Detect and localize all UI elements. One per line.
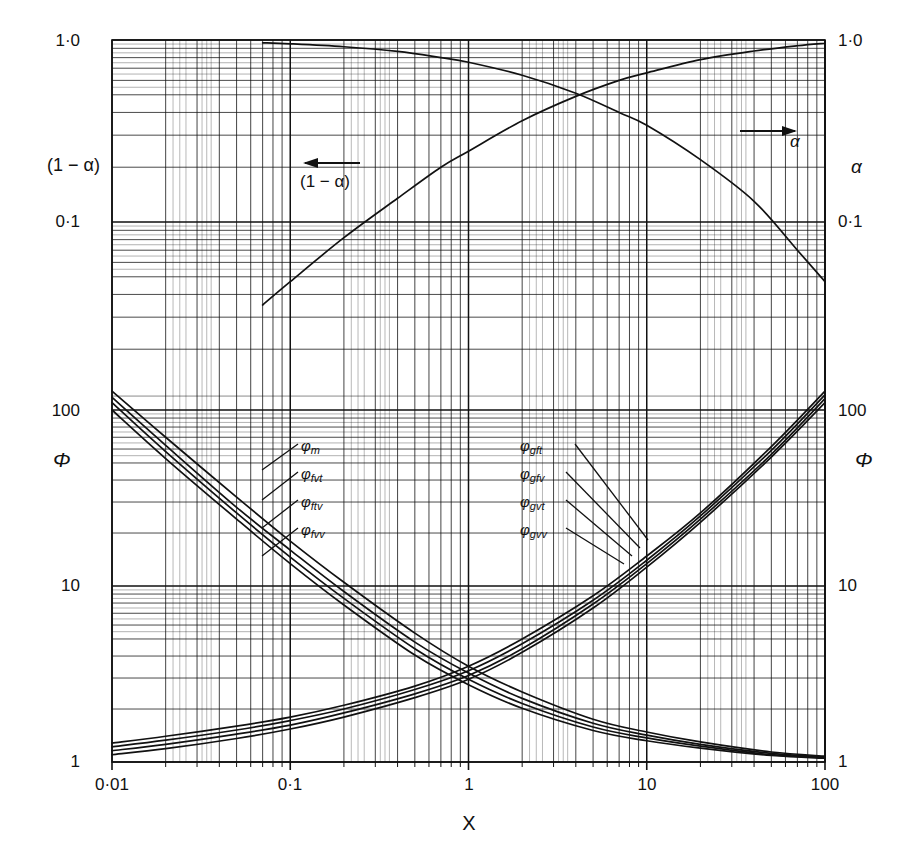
grid-layer [112, 40, 825, 770]
chart-figure: 1·0 0·1 (1 − α) 100 10 1 Φ 1·0 0·1 α 100… [0, 0, 907, 860]
leader-line-left-0 [262, 444, 298, 470]
plot-canvas [0, 0, 907, 860]
arrowhead-alpha [782, 126, 797, 136]
leader-line-left-2 [262, 500, 298, 528]
arrowhead-one-minus-alpha [303, 158, 318, 168]
leader-line-left-1 [262, 472, 298, 500]
